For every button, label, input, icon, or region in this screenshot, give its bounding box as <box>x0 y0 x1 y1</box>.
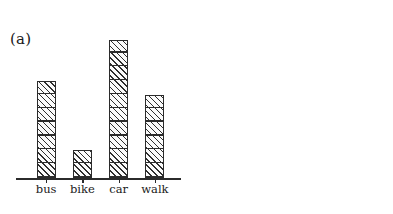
panel-b: (b) 012345678910busbikecarwalk <box>196 0 393 214</box>
panel-a-bar-bike <box>73 150 92 178</box>
panel-a: (a) busbikecarwalk <box>0 0 196 214</box>
panel-a-bar-walk <box>145 95 164 178</box>
panel-a-bar-car <box>109 40 128 178</box>
panel-a-baseline <box>16 178 181 180</box>
panel-a-x-label-bike: bike <box>70 184 95 196</box>
panel-a-x-label-car: car <box>109 184 128 196</box>
panel-a-plot-area: busbikecarwalk <box>28 26 173 178</box>
panel-a-x-label-bus: bus <box>36 184 57 196</box>
panel-a-x-label-walk: walk <box>141 184 168 196</box>
figure-two-bar-charts: (a) busbikecarwalk (b) 012345678910busbi… <box>0 0 393 214</box>
panel-a-bar-bus <box>37 81 56 178</box>
